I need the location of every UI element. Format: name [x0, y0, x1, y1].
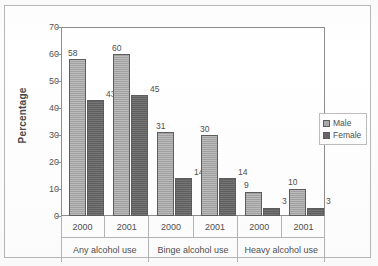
bar-group-binge-2001: 30 14	[201, 27, 241, 216]
x-axis-year-heavy-2000: 2000	[238, 216, 282, 237]
bar-male-binge-2000[interactable]	[157, 132, 174, 216]
bar-female-any-2001[interactable]	[131, 95, 148, 217]
y-tick-label-70: 70	[25, 22, 59, 32]
legend-item-male[interactable]: Male	[323, 117, 363, 129]
bar-male-heavy-2000[interactable]	[245, 192, 262, 216]
x-axis-year-any-2001: 2001	[105, 216, 149, 237]
bar-value-male-any-2001: 60	[112, 43, 121, 53]
x-axis-year-row: 2000 2001 2000 2001 2000 2001	[61, 216, 325, 238]
bar-female-heavy-2000[interactable]	[263, 208, 280, 216]
x-axis-year-any-2000: 2000	[61, 216, 105, 237]
x-axis-category-binge: Binge alcohol use	[149, 238, 237, 262]
y-tick-label-30: 30	[25, 130, 59, 140]
bar-value-female-heavy-2000: 3	[282, 196, 287, 206]
y-tick-label-50: 50	[25, 76, 59, 86]
bar-female-heavy-2001[interactable]	[307, 208, 324, 216]
legend-label-male: Male	[333, 117, 351, 129]
bar-female-binge-2001[interactable]	[219, 178, 236, 216]
bar-value-male-heavy-2000: 9	[244, 180, 249, 190]
bar-male-any-2000[interactable]	[69, 59, 86, 216]
bar-group-heavy-2000: 9 3	[245, 27, 285, 216]
bar-group-binge-2000: 31 14	[157, 27, 197, 216]
x-axis-year-binge-2000: 2000	[149, 216, 193, 237]
y-tick-label-0: 0	[25, 211, 59, 221]
x-axis-category-heavy: Heavy alcohol use	[238, 238, 325, 262]
x-axis-category-any: Any alcohol use	[61, 238, 149, 262]
bar-value-male-binge-2001: 30	[200, 124, 209, 134]
bar-value-female-heavy-2001: 3	[326, 196, 331, 206]
figure-frame: Percentage 70 60 50 40 30 20 10 0	[4, 5, 371, 258]
x-axis-year-binge-2001: 2001	[194, 216, 238, 237]
legend-label-female: Female	[333, 129, 361, 141]
y-tick-label-60: 60	[25, 49, 59, 59]
chart-screenshot: Percentage 70 60 50 40 30 20 10 0	[0, 0, 378, 266]
bar-value-male-binge-2000: 31	[156, 121, 165, 131]
bar-value-male-any-2000: 58	[68, 48, 77, 58]
bar-male-heavy-2001[interactable]	[289, 189, 306, 216]
bar-male-any-2001[interactable]	[113, 54, 130, 216]
bar-male-binge-2001[interactable]	[201, 135, 218, 216]
legend-swatch-female-icon	[323, 132, 330, 139]
y-tick-label-20: 20	[25, 157, 59, 167]
bar-female-binge-2000[interactable]	[175, 178, 192, 216]
x-axis: 2000 2001 2000 2001 2000 2001 Any alcoho…	[61, 216, 325, 262]
x-axis-year-heavy-2001: 2001	[282, 216, 325, 237]
bar-group-any-2000: 58 43	[69, 27, 109, 216]
bars-layer: 58 43 60 45 31 14 30 14	[61, 27, 325, 216]
x-axis-category-row: Any alcohol use Binge alcohol use Heavy …	[61, 238, 325, 262]
bar-female-any-2000[interactable]	[87, 100, 104, 216]
bar-value-male-heavy-2001: 10	[288, 177, 297, 187]
legend-item-female[interactable]: Female	[323, 129, 363, 141]
y-tick-label-10: 10	[25, 184, 59, 194]
legend: Male Female	[319, 113, 367, 145]
bar-group-any-2001: 60 45	[113, 27, 153, 216]
legend-swatch-male-icon	[323, 120, 330, 127]
y-tick-label-40: 40	[25, 103, 59, 113]
